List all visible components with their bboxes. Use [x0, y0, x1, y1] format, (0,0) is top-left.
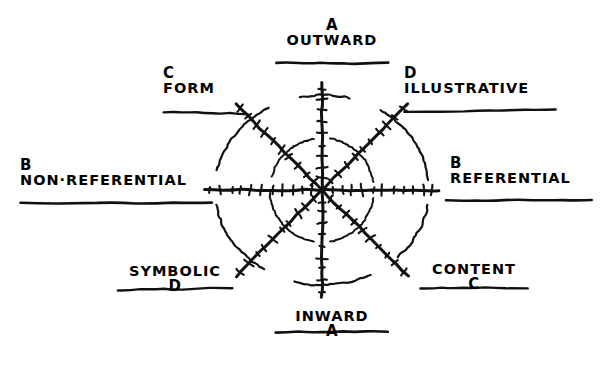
- axis-tick-horizontal-left-2: [302, 187, 303, 194]
- label-inward: INWARD A: [276, 309, 388, 339]
- label-symbolic: SYMBOLIC D: [118, 264, 232, 294]
- axis-tick-vertical-down-1: [319, 202, 326, 203]
- underline-outward: [276, 63, 388, 64]
- axis-tick-vertical-down-6: [316, 259, 328, 260]
- ring-outer-arc: [217, 108, 269, 170]
- axis-tick-vertical-up-4: [319, 146, 324, 147]
- axis-tick-horizontal-right-4: [361, 184, 363, 197]
- ring-outer-arc: [398, 205, 428, 257]
- axis-tick-vertical-up-7: [318, 109, 327, 110]
- axis-tick-vertical-up-2: [316, 167, 327, 169]
- label-referential-word: REFERENTIAL: [450, 171, 571, 186]
- axis-tick-horizontal-right-2: [342, 186, 343, 194]
- axis-tick-horizontal-left-6: [260, 185, 262, 195]
- label-referential: B REFERENTIAL: [450, 156, 571, 186]
- label-illustrative: D ILLUSTRATIVE: [404, 66, 529, 96]
- axis-ray-horizontal-right: [321, 189, 439, 191]
- axis-tick-horizontal-left-3: [293, 185, 294, 194]
- ring-outer-arc: [381, 110, 429, 180]
- underline-non-referential: [21, 203, 212, 204]
- label-form: C FORM: [163, 66, 215, 96]
- label-form-word: FORM: [163, 81, 215, 96]
- ring-outer-arc: [294, 275, 370, 285]
- axis-tick-horizontal-left-10: [219, 186, 220, 195]
- label-outward-word: OUTWARD: [276, 33, 388, 48]
- label-inward-code: A: [276, 324, 388, 339]
- axis-tick-horizontal-right-5: [373, 187, 374, 193]
- axis-tick-horizontal-left-4: [282, 184, 283, 196]
- axis-tick-horizontal-left-7: [249, 185, 251, 195]
- axis-tick-horizontal-left-11: [209, 187, 210, 193]
- axis-tick-horizontal-right-8: [403, 187, 404, 194]
- axis-tick-vertical-down-8: [317, 279, 327, 280]
- axis-ray-diagonal-nw: [236, 104, 322, 190]
- axis-tick-vertical-up-6: [317, 121, 326, 122]
- label-form-code: C: [163, 66, 215, 81]
- label-symbolic-code: D: [118, 279, 232, 294]
- axis-tick-horizontal-left-5: [273, 186, 274, 195]
- axis-ray-horizontal-left: [205, 189, 322, 191]
- axis-tick-vertical-down-5: [319, 246, 324, 247]
- axis-tick-vertical-up-9: [318, 89, 325, 90]
- axis-tick-vertical-down-9: [319, 292, 325, 293]
- label-outward: A OUTWARD: [276, 18, 388, 48]
- underline-illustrative: [404, 110, 555, 112]
- axis-tick-vertical-down-3: [317, 222, 326, 224]
- axis-tick-horizontal-right-10: [423, 185, 424, 196]
- label-content: CONTENT C: [420, 262, 528, 292]
- axis-tick-horizontal-right-1: [332, 187, 333, 193]
- axis-tick-horizontal-right-11: [431, 185, 433, 195]
- axis-tick-vertical-down-2: [318, 211, 326, 212]
- underline-form: [164, 112, 248, 114]
- axis-tick-horizontal-left-9: [232, 187, 233, 193]
- label-non-referential-code: B: [20, 158, 187, 173]
- label-non-referential-word: NON·REFERENTIAL: [20, 173, 187, 188]
- label-illustrative-code: D: [404, 66, 529, 81]
- axis-tick-vertical-up-8: [317, 99, 328, 100]
- label-content-code: C: [420, 277, 528, 292]
- underline-referential: [446, 200, 592, 201]
- label-referential-code: B: [450, 156, 571, 171]
- label-non-referential: B NON·REFERENTIAL: [20, 158, 187, 188]
- axis-tick-horizontal-right-7: [394, 187, 395, 194]
- ring-outer-arc: [216, 205, 264, 269]
- axis-tick-horizontal-left-8: [240, 186, 241, 194]
- diagram-canvas: A OUTWARD INWARD A B NON·REFERENTIAL B R…: [0, 0, 612, 383]
- axis-tick-horizontal-left-1: [311, 185, 313, 194]
- axis-tick-horizontal-right-3: [351, 185, 352, 195]
- label-outward-code: A: [276, 18, 388, 33]
- label-illustrative-word: ILLUSTRATIVE: [404, 81, 529, 96]
